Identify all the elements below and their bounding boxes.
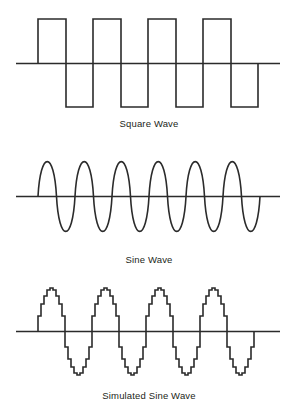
simulated-sine-wave-caption: Simulated Sine Wave	[0, 384, 298, 402]
figure-square-wave: Square Wave	[0, 0, 298, 136]
sine-wave-chart	[0, 136, 298, 248]
square-wave-caption: Square Wave	[0, 112, 298, 130]
figure-simulated-sine-wave: Simulated Sine Wave	[0, 272, 298, 412]
simulated-sine-wave-chart	[0, 272, 298, 384]
square-wave-chart	[0, 0, 298, 112]
sine-wave-caption: Sine Wave	[0, 248, 298, 266]
figure-sine-wave: Sine Wave	[0, 136, 298, 272]
